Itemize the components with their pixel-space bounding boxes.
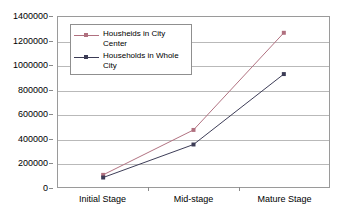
x-tick-label: Mid-stage — [174, 194, 214, 204]
x-tick-mark — [239, 187, 240, 191]
y-tick-mark — [49, 139, 53, 140]
legend-item-series-1: Housheids in City Center — [74, 29, 187, 48]
legend-key-series-1-icon — [74, 30, 99, 41]
y-tick-label: 400000 — [18, 134, 48, 143]
y-tick-mark — [49, 114, 53, 115]
y-axis: 1400000120000010000008000006000004000002… — [0, 16, 53, 188]
data-point-marker — [282, 72, 286, 76]
y-tick-mark — [49, 188, 53, 189]
x-tick-label: Mature Stage — [257, 194, 311, 204]
y-tick-label: 1400000 — [13, 12, 48, 21]
y-tick-label: 200000 — [18, 159, 48, 168]
y-tick-mark — [49, 90, 53, 91]
y-tick-mark — [49, 16, 53, 17]
y-tick-mark — [49, 163, 53, 164]
legend-label-series-1: Housheids in City Center — [103, 29, 187, 48]
data-point-marker — [192, 143, 196, 147]
legend-label-series-2: Households in Whole City — [103, 51, 187, 70]
line-chart: 1400000120000010000008000006000004000002… — [0, 0, 338, 217]
y-tick-label: 1000000 — [13, 61, 48, 70]
series-line-2 — [103, 74, 284, 177]
y-tick-label: 600000 — [18, 110, 48, 119]
data-point-marker — [101, 176, 105, 180]
legend-item-series-2: Households in Whole City — [74, 51, 187, 70]
data-point-marker — [282, 31, 286, 35]
x-tick-label: Initial Stage — [79, 194, 126, 204]
data-point-marker — [192, 128, 196, 132]
chart-legend: Housheids in City Center Households in W… — [70, 24, 192, 75]
x-tick-mark — [148, 187, 149, 191]
y-tick-mark — [49, 65, 53, 66]
legend-key-series-2-icon — [74, 52, 99, 63]
x-axis: Initial StageMid-stageMature Stage — [57, 192, 330, 212]
y-tick-mark — [49, 41, 53, 42]
y-tick-label: 0 — [43, 184, 48, 193]
y-tick-label: 800000 — [18, 85, 48, 94]
y-tick-label: 1200000 — [13, 36, 48, 45]
